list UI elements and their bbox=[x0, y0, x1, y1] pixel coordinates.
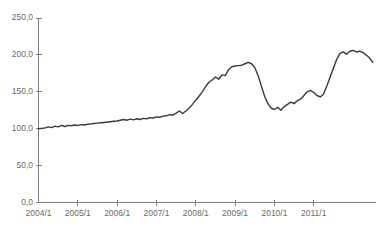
y-axis-tick-label: 100,0 bbox=[12, 123, 34, 133]
x-axis-tick-label: 2011/1 bbox=[301, 208, 327, 218]
x-axis-tick-label: 2010/1 bbox=[261, 208, 287, 218]
y-axis-labels: 250,0200,0150,0100,050,00,0 bbox=[12, 12, 34, 207]
x-axis-labels: 2004/12005/12006/12007/12008/12009/12010… bbox=[26, 208, 327, 218]
x-axis-tick-label: 2005/1 bbox=[65, 208, 91, 218]
data-series-line bbox=[39, 50, 373, 128]
x-axis-tick-label: 2004/1 bbox=[26, 208, 52, 218]
y-axis-tick-label: 0,0 bbox=[21, 197, 33, 207]
y-axis-tick-label: 50,0 bbox=[16, 160, 33, 170]
chart-container: 250,0200,0150,0100,050,00,0 2004/12005/1… bbox=[0, 0, 385, 243]
line-chart: 250,0200,0150,0100,050,00,0 2004/12005/1… bbox=[0, 0, 385, 243]
x-axis-tick-label: 2007/1 bbox=[143, 208, 169, 218]
x-axis-tick-label: 2009/1 bbox=[222, 208, 248, 218]
x-axis-tick-label: 2006/1 bbox=[104, 208, 130, 218]
y-axis-tick-label: 150,0 bbox=[12, 86, 34, 96]
y-axis-tick-label: 250,0 bbox=[12, 12, 34, 22]
x-axis-tick-label: 2008/1 bbox=[183, 208, 209, 218]
y-axis-tick-label: 200,0 bbox=[12, 49, 34, 59]
